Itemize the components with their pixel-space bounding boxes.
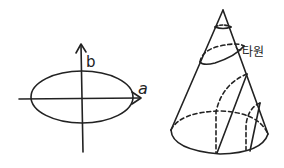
- axis-label-a: a: [138, 79, 148, 98]
- axis-label-b: b: [86, 53, 96, 71]
- cone-figure: [171, 10, 268, 154]
- cone-ellipse-label: 타원: [242, 42, 264, 59]
- y-axis: [81, 45, 83, 152]
- top-circle-front: [215, 27, 231, 29]
- conic-sections-diagram: b a 타원: [0, 0, 284, 168]
- ellipse-figure: [19, 44, 141, 152]
- x-axis: [19, 98, 140, 99]
